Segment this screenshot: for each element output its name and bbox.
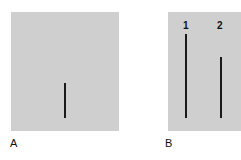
panel-b-label: B — [165, 137, 172, 149]
line-2 — [220, 57, 222, 118]
line-1-label: 1 — [183, 20, 189, 31]
line-a — [64, 83, 66, 118]
panel-b: 1 2 — [168, 12, 241, 131]
panel-a-label: A — [10, 137, 17, 149]
line-1 — [185, 34, 187, 118]
line-2-label: 2 — [217, 20, 223, 31]
panel-a — [11, 12, 119, 131]
